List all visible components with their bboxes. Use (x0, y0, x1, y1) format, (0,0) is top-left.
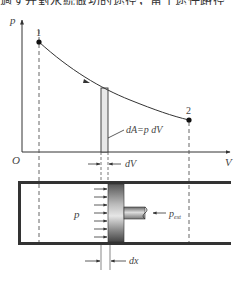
gas-pressure-arrows (94, 189, 107, 237)
piston-rod (124, 207, 145, 219)
work-element-strip (101, 88, 108, 152)
cylinder-top-wall (18, 181, 231, 184)
process-curve (39, 42, 189, 120)
external-pressure-subscript: ext (174, 214, 181, 220)
piston (108, 184, 124, 242)
work-element-label: dA=p dV (126, 124, 164, 135)
point-1-label: 1 (36, 27, 41, 38)
work-element-leader (108, 130, 124, 138)
pv-diagram: p V O 1 2 dA=p dV dV p pext (0, 0, 241, 281)
point-2-label: 2 (186, 105, 191, 116)
external-pressure-label: pext (168, 208, 181, 220)
v-axis-label: V (225, 156, 233, 168)
p-axis-label: p (9, 14, 16, 26)
dv-label: dV (125, 158, 138, 169)
gas-pressure-label: p (73, 208, 80, 220)
dx-label: dx (129, 255, 139, 266)
origin-label: O (12, 154, 20, 166)
state-point-2 (186, 117, 191, 122)
cylinder-left-wall (18, 181, 21, 245)
state-point-1 (36, 39, 41, 44)
cylinder-bottom-wall (18, 242, 231, 245)
